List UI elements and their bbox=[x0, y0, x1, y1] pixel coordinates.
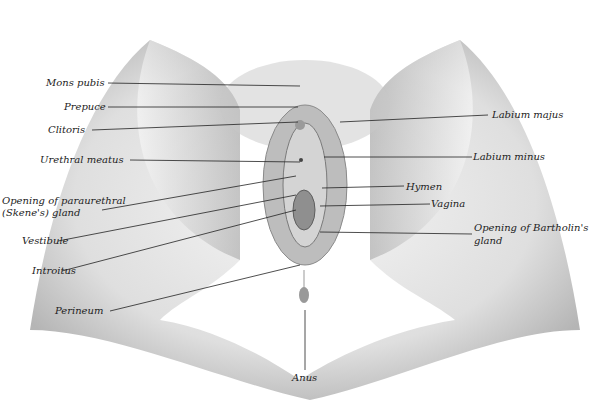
label-vagina: Vagina bbox=[431, 198, 465, 210]
label-introitus: Introitus bbox=[32, 265, 76, 277]
anatomy-diagram: Mons pubis Prepuce Clitoris Urethral mea… bbox=[0, 0, 616, 409]
label-prepuce: Prepuce bbox=[64, 101, 106, 113]
label-paraurethral-gland-line2: (Skene's) gland bbox=[2, 207, 80, 219]
label-bartholin-line2: gland bbox=[474, 235, 502, 247]
label-mons-pubis: Mons pubis bbox=[46, 77, 105, 89]
label-vestibule: Vestibule bbox=[22, 235, 69, 247]
label-hymen: Hymen bbox=[406, 181, 442, 193]
label-paraurethral-gland-line1: Opening of paraurethral bbox=[2, 195, 126, 207]
label-bartholin-line1: Opening of Bartholin's bbox=[474, 222, 588, 234]
label-anus: Anus bbox=[292, 372, 317, 384]
label-perineum: Perineum bbox=[55, 305, 103, 317]
label-urethral-meatus: Urethral meatus bbox=[40, 154, 124, 166]
label-clitoris: Clitoris bbox=[48, 124, 85, 136]
label-labium-minus: Labium minus bbox=[473, 151, 545, 163]
label-labium-majus: Labium majus bbox=[492, 109, 563, 121]
